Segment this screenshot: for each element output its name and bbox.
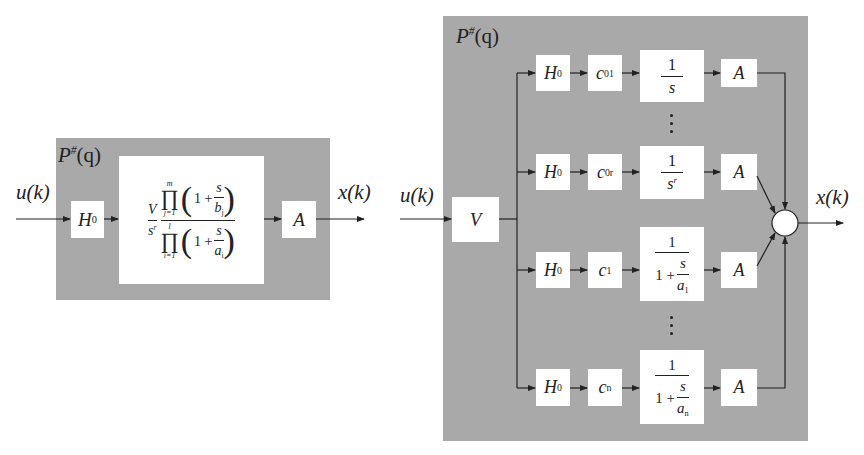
signal-wires [0,0,864,455]
summing-junction [772,210,798,236]
